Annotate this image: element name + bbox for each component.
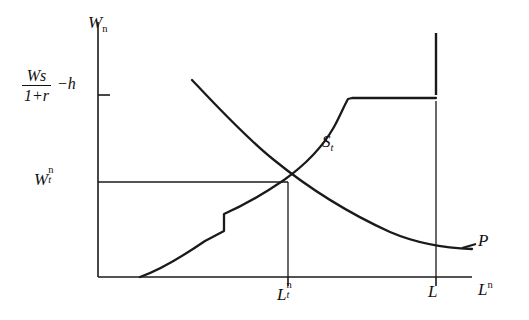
equilibrium-wage-subscript: t — [48, 175, 51, 186]
y-tick-label-reservation-wage: Ws 1+r −h — [22, 67, 76, 105]
plot-canvas — [0, 0, 529, 320]
x-axis-label-superscript: n — [487, 279, 492, 290]
reservation-wage-suffix: −h — [57, 75, 76, 92]
x-axis-label: Ln — [478, 281, 493, 298]
y-axis-label-base: W — [88, 13, 102, 32]
fraction-numerator: Ws — [22, 67, 51, 86]
demand-curve-label: P — [478, 232, 488, 249]
demand-curve-label-base: P — [478, 231, 488, 250]
labor-market-diagram: Wn Ws 1+r −h Wnt Lnt L Ln St P — [0, 0, 529, 320]
demand-label-leader — [462, 244, 476, 248]
equilibrium-labor-affixes: nt — [286, 283, 297, 300]
equilibrium-labor-base: L — [277, 285, 286, 304]
labor-endowment-base: L — [428, 282, 437, 301]
supply-curve-label-subscript: t — [331, 142, 334, 153]
x-tick-label-equilibrium-labor: Lnt — [277, 283, 297, 303]
equilibrium-wage-base: W — [34, 170, 48, 189]
reservation-wage-fraction: Ws 1+r — [22, 67, 51, 105]
fraction-denominator: 1+r — [22, 86, 51, 104]
x-tick-label-labor-endowment: L — [428, 283, 437, 300]
demand-curve — [192, 80, 472, 249]
equilibrium-labor-subscript: t — [286, 290, 289, 301]
y-tick-label-equilibrium-wage: Wnt — [34, 168, 59, 188]
y-axis-label-subscript: n — [102, 23, 107, 34]
supply-curve-label-base: S — [322, 132, 331, 151]
y-axis-label: Wn — [88, 14, 107, 31]
supply-curve-label: St — [322, 133, 333, 150]
equilibrium-wage-affixes: nt — [48, 168, 59, 185]
